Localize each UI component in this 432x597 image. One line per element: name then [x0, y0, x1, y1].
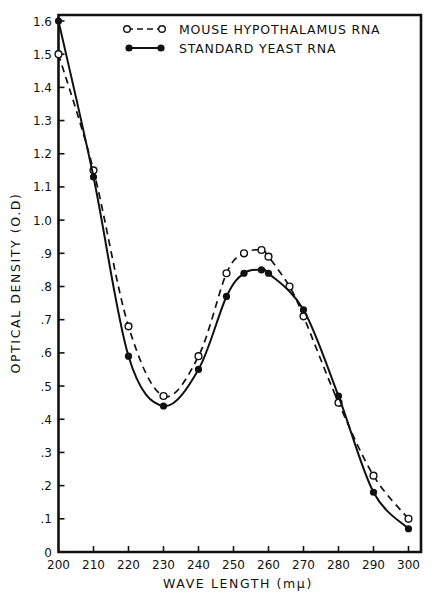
open-circle-marker-icon — [223, 270, 230, 277]
filled-circle-marker-icon — [55, 17, 62, 24]
y-tick-label: .8 — [41, 280, 52, 294]
filled-circle-marker-icon — [125, 353, 132, 360]
y-tick-label: .7 — [41, 313, 52, 327]
filled-circle-marker-icon — [258, 266, 265, 273]
x-tick-label: 210 — [82, 558, 105, 572]
filled-circle-marker-icon — [240, 270, 247, 277]
open-circle-marker-icon — [265, 253, 272, 260]
x-tick-label: 260 — [257, 558, 280, 572]
y-tick-label: .6 — [41, 346, 52, 360]
filled-circle-marker-icon — [90, 173, 97, 180]
legend-marker-open-icon — [124, 26, 131, 33]
open-circle-marker-icon — [125, 323, 132, 330]
y-tick-label: 1.5 — [33, 48, 52, 62]
y-tick-label: .2 — [41, 479, 52, 493]
y-tick-label: .3 — [41, 446, 52, 460]
open-circle-marker-icon — [405, 515, 412, 522]
y-axis-title: OPTICAL DENSITY (O.D) — [8, 193, 23, 374]
open-circle-marker-icon — [258, 247, 265, 254]
x-tick-label: 230 — [152, 558, 175, 572]
y-tick-label: 0 — [44, 546, 52, 560]
y-tick-label: .5 — [41, 380, 52, 394]
legend-marker-open-icon — [159, 26, 166, 33]
filled-circle-marker-icon — [160, 402, 167, 409]
y-tick-label: .1 — [41, 512, 52, 526]
x-tick-label: 200 — [47, 558, 70, 572]
open-circle-marker-icon — [55, 51, 62, 58]
x-tick-label: 270 — [292, 558, 315, 572]
legend-label-yeast: STANDARD YEAST RNA — [179, 41, 336, 56]
filled-circle-marker-icon — [335, 392, 342, 399]
filled-circle-marker-icon — [195, 366, 202, 373]
open-circle-marker-icon — [160, 393, 167, 400]
y-tick-label: .9 — [41, 247, 52, 261]
chart: 200210220230240250260270280290300 0.1.2.… — [0, 0, 432, 597]
filled-circle-marker-icon — [265, 270, 272, 277]
y-tick-label: 1.3 — [33, 114, 52, 128]
x-tick-label: 240 — [187, 558, 210, 572]
x-tick-label: 290 — [362, 558, 385, 572]
filled-circle-marker-icon — [300, 306, 307, 313]
x-tick-label: 250 — [222, 558, 245, 572]
open-circle-marker-icon — [195, 353, 202, 360]
y-tick-label: 1.4 — [33, 81, 52, 95]
x-tick-label: 300 — [397, 558, 420, 572]
filled-circle-marker-icon — [405, 525, 412, 532]
y-tick-label: 1.1 — [33, 180, 52, 194]
y-tick-label: .4 — [41, 413, 52, 427]
filled-circle-marker-icon — [370, 489, 377, 496]
legend-marker-filled-icon — [157, 44, 164, 51]
x-tick-label: 280 — [327, 558, 350, 572]
y-tick-label: 1.2 — [33, 147, 52, 161]
y-tick-label: 1.0 — [33, 214, 52, 228]
open-circle-marker-icon — [370, 472, 377, 479]
open-circle-marker-icon — [241, 250, 248, 257]
x-axis-title: WAVE LENGTH (mμ) — [163, 576, 313, 591]
legend-label-mouse: MOUSE HYPOTHALAMUS RNA — [179, 22, 380, 37]
filled-circle-marker-icon — [223, 293, 230, 300]
legend-marker-filled-icon — [125, 44, 132, 51]
chart-background — [0, 0, 432, 597]
y-tick-label: 1.6 — [33, 15, 52, 29]
x-tick-label: 220 — [117, 558, 140, 572]
